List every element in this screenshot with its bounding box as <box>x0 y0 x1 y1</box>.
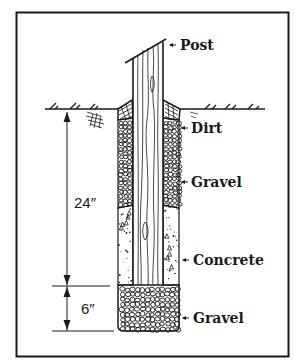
concrete-speck <box>174 273 176 275</box>
dimension-label-6in: 6″ <box>81 300 95 317</box>
concrete-speck <box>126 232 128 234</box>
concrete-speck <box>126 258 127 259</box>
concrete-speck <box>164 210 166 212</box>
concrete-speck <box>119 224 120 225</box>
concrete-speck <box>119 282 120 283</box>
concrete-speck <box>177 209 178 210</box>
callout-gravel-upper: Gravel <box>181 174 242 190</box>
concrete-speck <box>129 231 131 233</box>
dimension-label-24in: 24″ <box>74 194 97 211</box>
concrete-speck <box>176 232 177 233</box>
concrete-speck <box>175 236 176 237</box>
label-concrete: Concrete <box>193 252 264 268</box>
concrete-speck <box>128 282 129 283</box>
concrete-speck <box>177 245 178 246</box>
concrete-speck <box>173 235 175 237</box>
callout-concrete: Concrete <box>182 252 264 268</box>
concrete-speck <box>167 269 168 270</box>
label-gravel-upper: Gravel <box>191 174 242 190</box>
concrete-speck <box>170 228 171 229</box>
concrete-speck <box>166 217 167 218</box>
concrete-speck <box>130 280 132 282</box>
concrete-speck <box>119 274 121 276</box>
concrete-speck <box>177 261 178 262</box>
concrete-speck <box>169 261 170 262</box>
concrete-speck <box>173 246 174 247</box>
concrete-speck <box>130 241 131 242</box>
concrete-speck <box>123 262 124 263</box>
concrete-speck <box>122 213 123 214</box>
concrete-speck <box>168 217 169 218</box>
concrete-speck <box>127 251 129 253</box>
concrete-speck <box>176 239 178 241</box>
concrete-speck <box>167 229 168 230</box>
concrete-speck <box>168 278 169 279</box>
label-gravel-base: Gravel <box>193 310 244 326</box>
concrete-speck <box>121 251 122 252</box>
concrete-speck <box>127 228 128 229</box>
concrete-speck <box>129 208 131 210</box>
concrete-speck <box>128 277 129 278</box>
concrete-speck <box>168 245 169 246</box>
concrete-speck <box>175 260 176 261</box>
concrete-speck <box>128 270 129 271</box>
concrete-speck <box>169 225 170 226</box>
label-dirt: Dirt <box>191 120 223 136</box>
concrete-speck <box>125 250 127 252</box>
label-post: Post <box>180 37 214 53</box>
concrete-speck <box>121 214 123 216</box>
post-hole-diagram: 24″ 6″ Post Dirt Gravel Concrete Gravel <box>0 0 295 364</box>
concrete-speck <box>119 244 121 246</box>
concrete-speck <box>169 270 171 272</box>
concrete-speck <box>168 241 169 242</box>
concrete-speck <box>170 229 171 230</box>
concrete-speck <box>124 231 125 232</box>
concrete-speck <box>174 231 175 232</box>
